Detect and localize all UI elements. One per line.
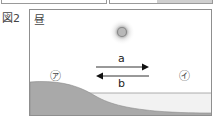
figure-number-label: 図2	[2, 9, 20, 25]
point-i-sea-label: ㋑	[179, 67, 190, 83]
diagram-frame: 昼	[29, 9, 212, 116]
previous-figure-right-box	[109, 0, 213, 4]
previous-figure-left-box	[1, 0, 107, 4]
arrow-b-label: b	[118, 77, 125, 90]
previous-figure-shaded-area	[157, 0, 212, 3]
point-a-land-label: ㋐	[50, 67, 61, 83]
arrow-a-label: a	[118, 52, 125, 65]
sun-icon	[109, 19, 135, 45]
